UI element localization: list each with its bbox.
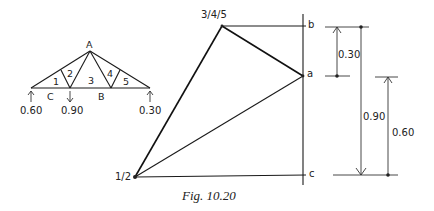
reaction-left-value: 0.60 <box>20 105 42 116</box>
panel-label-4: 4 <box>107 68 113 79</box>
label-c: c <box>309 168 315 179</box>
panel-label-2: 2 <box>67 68 73 79</box>
dimension-ab-value: 0.30 <box>338 49 360 60</box>
reaction-right-arrow-icon <box>147 91 153 102</box>
dimension-bc-value: 0.90 <box>363 111 385 122</box>
bottom-label-c: C <box>47 91 54 102</box>
figure-caption: Fig. 10.20 <box>181 188 236 203</box>
reaction-left-arrow-icon <box>28 91 34 102</box>
apex-label: A <box>86 39 93 50</box>
label-a: a <box>307 68 313 79</box>
line-12-to-a <box>135 76 303 177</box>
bottom-label-b: B <box>98 91 105 102</box>
force-diagram: 3/4/5 1/2 b a c <box>115 9 315 185</box>
panel-label-1: 1 <box>53 76 59 87</box>
label-b: b <box>308 19 314 30</box>
top-chord-left <box>31 51 90 88</box>
figure-canvas: A 1 2 3 4 5 C B 0.60 0.90 0.30 <box>0 0 434 211</box>
dimension-ab: 0.30 <box>333 27 360 78</box>
label-12: 1/2 <box>115 171 131 182</box>
reaction-right-value: 0.30 <box>139 105 161 116</box>
label-345: 3/4/5 <box>201 9 227 20</box>
node-12 <box>133 175 137 179</box>
node-345 <box>221 25 224 28</box>
dimension-ac-value: 0.60 <box>392 127 414 138</box>
top-chord-right <box>90 51 150 88</box>
dimension-ac: 0.60 <box>384 77 414 177</box>
line-12-to-345 <box>135 26 222 177</box>
load-middle-value: 0.90 <box>61 105 83 116</box>
dimension-bc: 0.90 <box>356 25 385 175</box>
node-a <box>302 75 305 78</box>
panel-label-3: 3 <box>88 75 94 86</box>
line-345-to-a <box>222 26 303 76</box>
dimensions: 0.30 0.90 0.60 <box>325 25 414 177</box>
line-12-to-c <box>135 175 306 177</box>
truss-diagram: A 1 2 3 4 5 C B 0.60 0.90 0.30 <box>20 39 161 116</box>
load-middle-arrow-icon <box>67 91 73 102</box>
panel-label-5: 5 <box>123 76 129 87</box>
